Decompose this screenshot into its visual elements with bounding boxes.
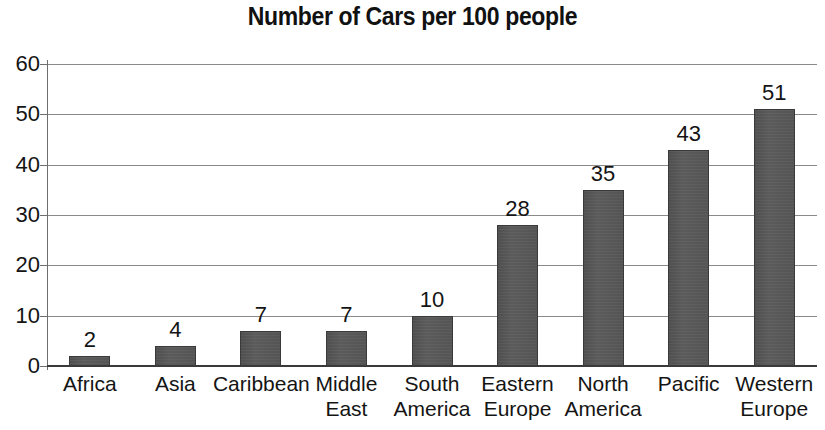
y-tick-label-30: 30 bbox=[6, 204, 40, 226]
bar-eastern-europe[interactable] bbox=[497, 225, 538, 366]
bar-value-label-middle-east: 7 bbox=[316, 304, 376, 326]
x-tick-label-line: Europe bbox=[726, 396, 822, 421]
y-tick-label-10: 10 bbox=[6, 305, 40, 327]
plot-area: 24771028354351 bbox=[47, 60, 817, 370]
x-tick-label-line: Caribbean bbox=[213, 371, 309, 396]
bar-south-america[interactable] bbox=[412, 316, 453, 366]
gridline-60 bbox=[47, 64, 817, 65]
x-tick-label-line: America bbox=[555, 396, 651, 421]
x-axis-labels: AfricaAsiaCaribbeanMiddleEastSouthAmeric… bbox=[47, 371, 817, 429]
bar-middle-east[interactable] bbox=[326, 331, 367, 366]
x-tick-label-line: East bbox=[298, 396, 394, 421]
bar-western-europe[interactable] bbox=[754, 109, 795, 366]
chart-title: Number of Cars per 100 people bbox=[33, 2, 792, 31]
x-tick-label-line: Europe bbox=[470, 396, 566, 421]
x-tick-label-north-america: NorthAmerica bbox=[555, 371, 651, 421]
bar-value-label-western-europe: 51 bbox=[744, 82, 804, 104]
x-tick-label-line: South bbox=[384, 371, 480, 396]
x-tick-label-africa: Africa bbox=[42, 371, 138, 396]
y-tick-50 bbox=[40, 114, 48, 115]
x-tick-label-line: North bbox=[555, 371, 651, 396]
x-tick-label-western-europe: WesternEurope bbox=[726, 371, 822, 421]
y-tick-20 bbox=[40, 265, 48, 266]
y-axis-labels: 6050403020100 bbox=[0, 60, 40, 370]
x-tick-label-eastern-europe: EasternEurope bbox=[470, 371, 566, 421]
y-tick-label-60: 60 bbox=[6, 53, 40, 75]
bar-value-label-caribbean: 7 bbox=[231, 304, 291, 326]
x-tick-label-south-america: SouthAmerica bbox=[384, 371, 480, 421]
x-tick-label-line: Pacific bbox=[641, 371, 737, 396]
x-tick-label-pacific: Pacific bbox=[641, 371, 737, 396]
bar-chart: Number of Cars per 100 people 6050403020… bbox=[0, 0, 825, 430]
x-tick-label-line: Western bbox=[726, 371, 822, 396]
bar-north-america[interactable] bbox=[583, 190, 624, 366]
bar-caribbean[interactable] bbox=[240, 331, 281, 366]
x-tick-label-line: Middle bbox=[298, 371, 394, 396]
x-tick-label-line: Africa bbox=[42, 371, 138, 396]
x-tick-label-line: Eastern bbox=[470, 371, 566, 396]
y-tick-label-0: 0 bbox=[6, 355, 40, 377]
bar-value-label-asia: 4 bbox=[145, 319, 205, 341]
y-tick-40 bbox=[40, 165, 48, 166]
x-tick-label-line: Asia bbox=[127, 371, 223, 396]
x-tick-label-line: America bbox=[384, 396, 480, 421]
y-tick-label-40: 40 bbox=[6, 154, 40, 176]
y-tick-60 bbox=[40, 64, 48, 65]
bar-pacific[interactable] bbox=[668, 150, 709, 366]
y-tick-30 bbox=[40, 215, 48, 216]
bar-value-label-south-america: 10 bbox=[402, 289, 462, 311]
x-tick-label-asia: Asia bbox=[127, 371, 223, 396]
bar-value-label-africa: 2 bbox=[60, 329, 120, 351]
x-tick-label-caribbean: Caribbean bbox=[213, 371, 309, 396]
bar-value-label-north-america: 35 bbox=[573, 163, 633, 185]
x-axis-line bbox=[47, 365, 817, 367]
bar-value-label-eastern-europe: 28 bbox=[488, 198, 548, 220]
bar-value-label-pacific: 43 bbox=[659, 123, 719, 145]
y-tick-10 bbox=[40, 316, 48, 317]
y-tick-label-20: 20 bbox=[6, 254, 40, 276]
gridline-50 bbox=[47, 114, 817, 115]
x-tick-label-middle-east: MiddleEast bbox=[298, 371, 394, 421]
bar-asia[interactable] bbox=[155, 346, 196, 366]
y-tick-label-50: 50 bbox=[6, 103, 40, 125]
